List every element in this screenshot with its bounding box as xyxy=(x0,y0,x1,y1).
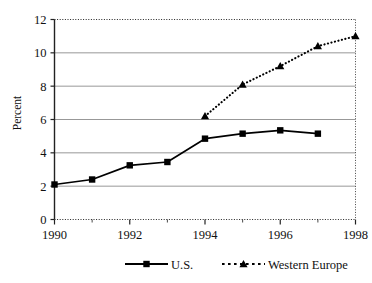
y-axis-title: Percent xyxy=(11,95,23,130)
x-tick-label: 1994 xyxy=(193,228,219,242)
y-tick-label: 10 xyxy=(34,46,47,60)
data-point-marker-square xyxy=(239,130,245,136)
legend-label-us: U.S. xyxy=(171,258,193,272)
x-tick-label: 1998 xyxy=(343,228,368,242)
chart-figure: 024681012 19901992199419961998 Percent U… xyxy=(0,0,372,283)
line-chart: 024681012 19901992199419961998 Percent U… xyxy=(0,0,372,283)
data-point-marker-square xyxy=(315,130,321,136)
data-point-marker-square xyxy=(143,261,149,267)
data-point-marker-square xyxy=(89,176,95,182)
y-tick-label: 0 xyxy=(40,213,46,227)
data-point-marker-square xyxy=(202,135,208,141)
data-point-marker-square xyxy=(277,127,283,133)
x-tick-label: 1990 xyxy=(42,228,67,242)
x-tick-label: 1996 xyxy=(268,228,293,242)
x-tick-label: 1992 xyxy=(117,228,142,242)
y-tick-label: 6 xyxy=(40,113,46,127)
y-tick-label: 4 xyxy=(40,146,47,160)
y-tick-label: 8 xyxy=(40,80,46,94)
data-point-marker-square xyxy=(51,181,57,187)
y-tick-label: 2 xyxy=(40,180,46,194)
y-tick-label: 12 xyxy=(34,13,47,27)
data-point-marker-square xyxy=(164,159,170,165)
legend-label-western-europe: Western Europe xyxy=(268,258,348,272)
data-point-marker-square xyxy=(127,162,133,168)
